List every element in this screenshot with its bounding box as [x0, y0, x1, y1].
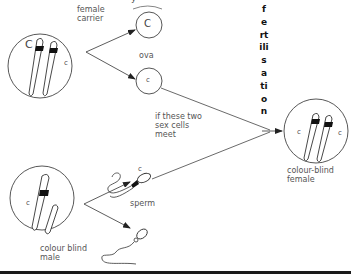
- bottom-divider: [0, 271, 351, 274]
- female-carrier-label: female carrier: [77, 5, 105, 23]
- arrow-to-ovum-recessive: [86, 52, 135, 79]
- arrow-to-ovum-dominant: [86, 30, 135, 52]
- female-allele-recessive: c: [64, 60, 68, 67]
- male-allele: c: [26, 200, 30, 207]
- colour-blind-female-label: colour-blind female: [287, 166, 334, 184]
- offspring-allele-left: c: [297, 129, 301, 136]
- sperm-x: [108, 171, 152, 197]
- arrow-to-sperm-x: [84, 182, 130, 204]
- fertilisation-line-sperm: [152, 132, 270, 179]
- colour-blind-male-label: colour blind male: [40, 244, 87, 262]
- arrow-to-sperm-y: [84, 204, 130, 228]
- ovum-allele-dominant: C: [144, 19, 151, 29]
- offspring-allele-right: c: [338, 130, 342, 137]
- x-chromosome-recessive: [43, 41, 58, 95]
- female-allele-dominant: C: [25, 39, 33, 50]
- meeting-note: if these two sex cells meet: [155, 112, 202, 139]
- colour-blind-male-cell: [10, 166, 74, 234]
- sperm-allele: c: [138, 166, 142, 173]
- ova-label: ova: [139, 51, 154, 60]
- title-fragment: y: [131, 0, 136, 3]
- ovum-allele-recessive: c: [146, 77, 150, 84]
- inheritance-diagram: [0, 0, 351, 280]
- sperm-y: [102, 227, 149, 264]
- partial-circle-top: [133, 6, 162, 9]
- female-carrier-cell: [8, 34, 72, 98]
- sperm-label: sperm: [130, 199, 155, 208]
- fertilisation-label: fertilisation: [259, 3, 269, 118]
